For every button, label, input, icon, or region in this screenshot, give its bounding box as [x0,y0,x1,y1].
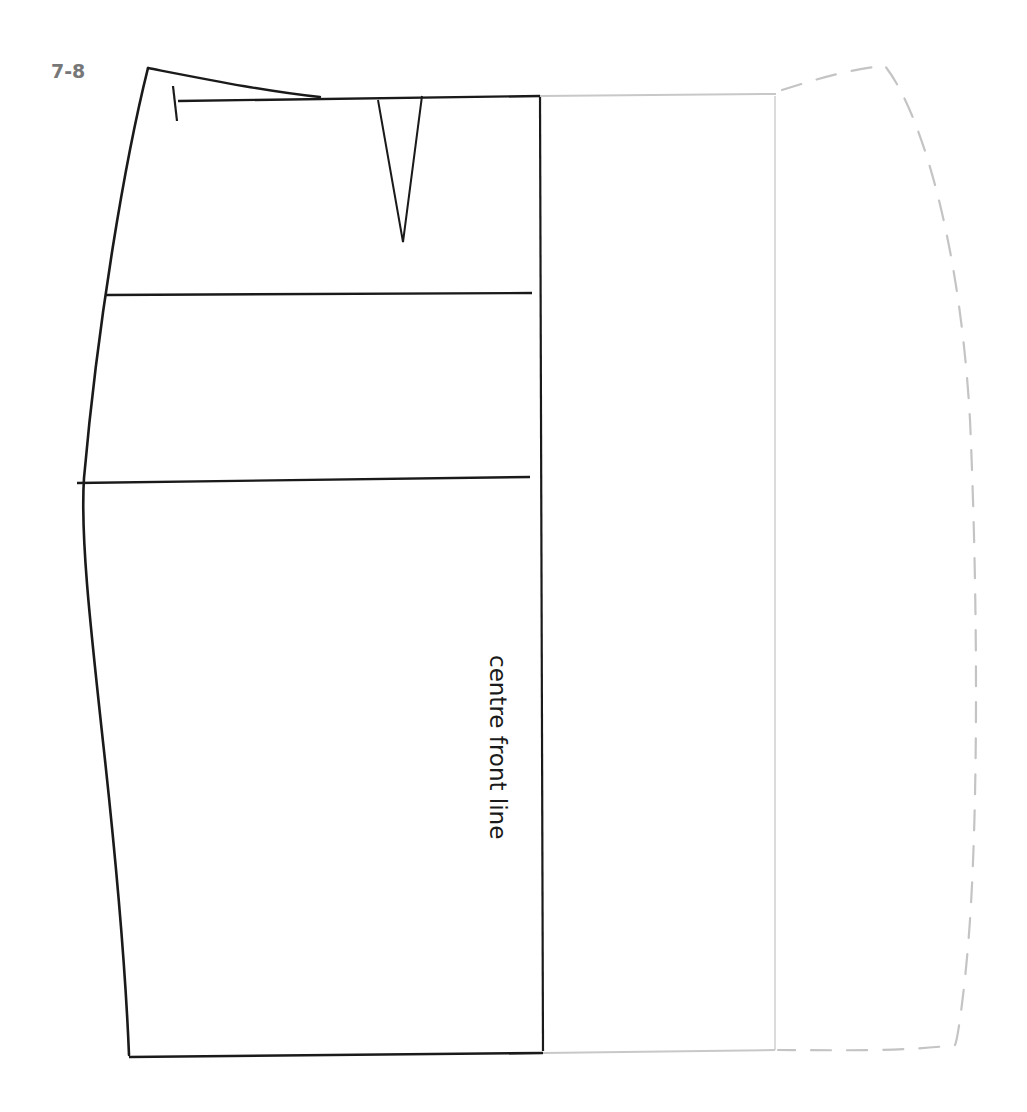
ghost-waistline [540,94,776,96]
waist-notch-mark [173,86,177,121]
hem-line [129,1053,543,1057]
skirt-pattern-diagram [0,0,1027,1112]
dashed-extension-curve [778,66,976,1050]
waistline [178,96,540,101]
centre-front-line [540,96,543,1051]
hip-line [77,477,530,483]
ghost-hem-line [543,1050,775,1053]
waist-dart [378,96,422,242]
centre-front-label: centre front line [486,655,509,839]
side-seam-line [83,68,148,1055]
abdomen-line [105,293,532,295]
